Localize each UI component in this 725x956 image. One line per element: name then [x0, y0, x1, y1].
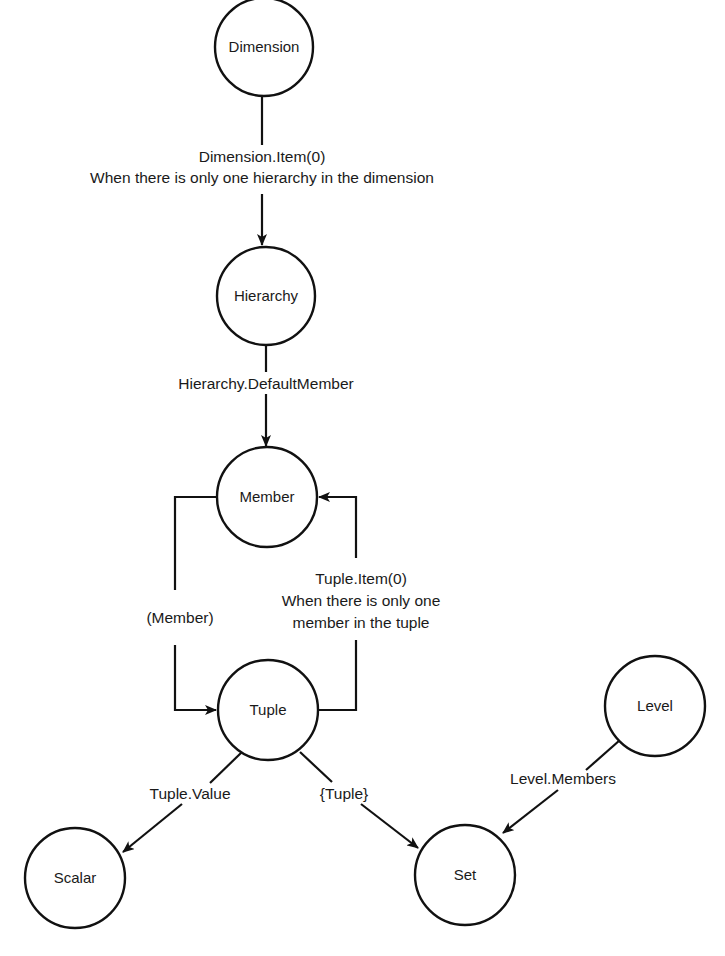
edge-line [300, 752, 332, 782]
node-label: Level [637, 697, 673, 714]
edge-line [318, 640, 356, 710]
edge-dimension-to-hierarchy: Dimension.Item(0) When there is only one… [90, 96, 434, 245]
node-dimension: Dimension [215, 0, 313, 96]
node-member: Member [217, 447, 317, 547]
node-label: Hierarchy [234, 287, 299, 304]
node-tuple: Tuple [218, 660, 318, 760]
edge-line [210, 752, 242, 783]
node-scalar: Scalar [25, 828, 125, 928]
edge-label-constructor: (Member) [146, 609, 213, 626]
edge-arrow [123, 804, 182, 852]
edge-level-to-set: Level.Members [503, 740, 620, 833]
node-label: Member [239, 488, 294, 505]
edge-line [175, 497, 217, 590]
node-hierarchy: Hierarchy [217, 247, 315, 345]
edge-label-constructor: {Tuple} [320, 785, 369, 802]
edge-label-method: Tuple.Value [150, 785, 231, 802]
edge-label-condition-line2: member in the tuple [293, 614, 430, 631]
edge-arrow [361, 804, 418, 848]
node-label: Tuple [250, 701, 287, 718]
edge-hierarchy-to-member: Hierarchy.DefaultMember [178, 345, 353, 446]
edge-label-method: Hierarchy.DefaultMember [178, 375, 353, 392]
edge-label-method: Dimension.Item(0) [199, 148, 326, 165]
node-label: Scalar [54, 869, 97, 886]
edge-tuple-to-scalar: Tuple.Value [123, 752, 242, 852]
edge-label-condition: When there is only one hierarchy in the … [90, 169, 434, 186]
edge-tuple-to-set: {Tuple} [300, 752, 418, 848]
diagram-canvas: Dimension.Item(0) When there is only one… [0, 0, 725, 956]
edge-label-condition-line1: When there is only one [282, 592, 441, 609]
edge-arrow [503, 790, 558, 833]
edge-arrow [319, 497, 356, 558]
node-label: Dimension [229, 38, 300, 55]
edge-label-method: Tuple.Item(0) [315, 570, 407, 587]
node-set: Set [415, 825, 515, 925]
edge-arrow [175, 645, 216, 710]
edge-member-to-tuple: (Member) [146, 497, 217, 710]
node-label: Set [454, 866, 477, 883]
edge-label-method: Level.Members [510, 770, 616, 787]
edge-line [586, 740, 620, 770]
node-level: Level [605, 656, 705, 756]
